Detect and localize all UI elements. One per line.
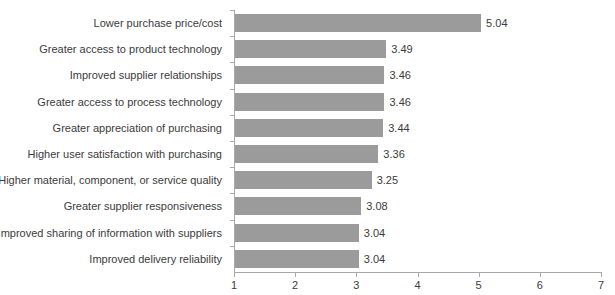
category-label: Greater supplier responsiveness: [0, 193, 228, 219]
category-label-column: Lower purchase price/costGreater access …: [0, 10, 228, 272]
category-label: Improved supplier relationships: [0, 62, 228, 88]
category-label: Improved sharing of information with sup…: [0, 220, 228, 246]
bar: [234, 250, 359, 268]
x-axis: 1234567: [234, 272, 601, 273]
bar: [234, 171, 372, 189]
category-label: Greater access to process technology: [0, 89, 228, 115]
y-axis-tick: [230, 167, 234, 168]
x-axis-tick: [601, 272, 602, 277]
bar-row: 3.44: [234, 115, 601, 141]
category-label: Higher material, component, or service q…: [0, 167, 228, 193]
bar: [234, 145, 378, 163]
x-axis-tick: [479, 272, 480, 277]
bar: [234, 40, 386, 58]
y-axis-tick: [230, 115, 234, 116]
y-axis-tick: [230, 246, 234, 247]
bar-value-label: 3.44: [383, 119, 409, 137]
y-axis-tick: [230, 193, 234, 194]
bar: [234, 224, 359, 242]
category-label: Higher user satisfaction with purchasing: [0, 141, 228, 167]
bar: [234, 93, 384, 111]
bar: [234, 14, 481, 32]
x-axis-tick: [540, 272, 541, 277]
bar-row: 3.46: [234, 62, 601, 88]
bar-row: 3.25: [234, 167, 601, 193]
bar-chart: Lower purchase price/costGreater access …: [0, 0, 615, 295]
y-axis: [234, 10, 235, 272]
bar-row: 3.46: [234, 89, 601, 115]
bar-row: 3.49: [234, 36, 601, 62]
y-axis-tick: [230, 89, 234, 90]
y-axis-tick: [230, 10, 234, 11]
bar-value-label: 3.46: [384, 66, 410, 84]
bar-value-label: 3.04: [359, 250, 385, 268]
bar-value-label: 3.04: [359, 224, 385, 242]
x-axis-tick: [295, 272, 296, 277]
bar: [234, 66, 384, 84]
bar-value-label: 3.08: [361, 197, 387, 215]
bar-value-label: 3.36: [378, 145, 404, 163]
category-label: Greater appreciation of purchasing: [0, 115, 228, 141]
bar-value-label: 3.46: [384, 93, 410, 111]
x-axis-tick: [356, 272, 357, 277]
bar: [234, 197, 361, 215]
y-axis-tick: [230, 62, 234, 63]
bar-row: 3.04: [234, 246, 601, 272]
category-label: Greater access to product technology: [0, 36, 228, 62]
y-axis-tick: [230, 141, 234, 142]
y-axis-tick: [230, 220, 234, 221]
category-label: Lower purchase price/cost: [0, 10, 228, 36]
x-axis-tick: [418, 272, 419, 277]
x-axis-tick: [234, 272, 235, 277]
bar: [234, 119, 383, 137]
bar-row: 3.36: [234, 141, 601, 167]
y-axis-tick: [230, 36, 234, 37]
bar-value-label: 5.04: [481, 14, 507, 32]
category-label: Improved delivery reliability: [0, 246, 228, 272]
bottom-margin: [0, 289, 615, 295]
bar-row: 3.04: [234, 220, 601, 246]
bar-value-label: 3.25: [372, 171, 398, 189]
plot-area: 5.043.493.463.463.443.363.253.083.043.04: [234, 10, 601, 272]
bar-row: 3.08: [234, 193, 601, 219]
bar-row: 5.04: [234, 10, 601, 36]
bar-value-label: 3.49: [386, 40, 412, 58]
